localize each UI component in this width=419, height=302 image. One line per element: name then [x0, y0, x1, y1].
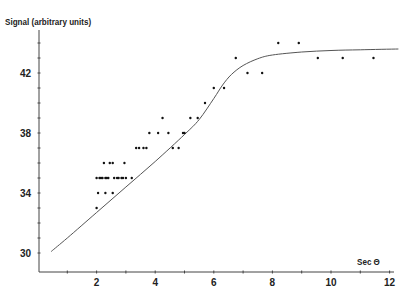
data-point: [183, 132, 185, 134]
data-point: [103, 162, 105, 164]
y-tick-label: 30: [20, 248, 32, 259]
data-points: [95, 42, 374, 209]
data-point: [189, 117, 191, 119]
x-tick-label: 2: [94, 277, 100, 288]
x-tick-label: 12: [384, 277, 396, 288]
data-point: [213, 87, 215, 89]
data-point: [235, 57, 237, 59]
data-point: [172, 147, 174, 149]
data-point: [135, 147, 137, 149]
data-point: [246, 72, 248, 74]
data-point: [123, 162, 125, 164]
data-point: [112, 162, 114, 164]
data-point: [142, 147, 144, 149]
data-point: [104, 192, 106, 194]
data-point: [95, 177, 97, 179]
data-point: [112, 192, 114, 194]
data-point: [148, 132, 150, 134]
data-point: [317, 57, 319, 59]
x-axis-label: Sec Θ: [357, 256, 380, 267]
x-tick-label: 10: [325, 277, 337, 288]
data-point: [167, 132, 169, 134]
y-tick-label: 38: [20, 128, 32, 139]
fit-curve: [51, 49, 398, 252]
data-point: [109, 162, 111, 164]
axes: [39, 30, 394, 272]
x-tick-label: 8: [270, 277, 276, 288]
data-point: [177, 147, 179, 149]
data-point: [113, 177, 115, 179]
data-point: [101, 177, 103, 179]
tick-labels: 3034384224681012: [20, 68, 396, 288]
x-tick-label: 6: [211, 277, 217, 288]
y-tick-label: 34: [20, 188, 32, 199]
data-point: [196, 117, 198, 119]
data-point: [204, 102, 206, 104]
tick-marks: [38, 43, 390, 274]
data-point: [131, 177, 133, 179]
data-point: [122, 177, 124, 179]
data-point: [138, 147, 140, 149]
data-point: [298, 42, 300, 44]
data-point: [97, 192, 99, 194]
y-tick-label: 42: [20, 68, 32, 79]
data-point: [277, 42, 279, 44]
y-axis-label: Signal (arbitrary units): [5, 16, 91, 27]
data-point: [261, 72, 263, 74]
data-point: [157, 132, 159, 134]
data-point: [342, 57, 344, 59]
data-point: [372, 57, 374, 59]
data-point: [223, 87, 225, 89]
data-point: [95, 207, 97, 209]
x-tick-label: 4: [152, 277, 158, 288]
data-point: [117, 177, 119, 179]
data-point: [145, 147, 147, 149]
data-point: [107, 177, 109, 179]
data-point: [125, 177, 127, 179]
data-point: [161, 117, 163, 119]
